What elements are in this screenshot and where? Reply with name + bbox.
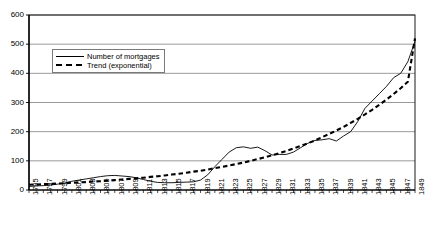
x-axis-tick-label: 1839 <box>347 178 355 195</box>
y-axis-tick-label: 400 <box>0 69 24 77</box>
x-axis-tick-label: 1829 <box>275 178 283 195</box>
x-axis-tick-label: 1801 <box>75 178 83 195</box>
x-axis-tick-label: 1835 <box>318 178 326 195</box>
y-axis-tick-label: 500 <box>0 40 24 48</box>
x-axis-tick-label: 1827 <box>261 178 269 195</box>
chart-plot-area <box>0 0 440 251</box>
x-axis-tick-label: 1849 <box>418 178 426 195</box>
x-axis-tick-label: 1825 <box>246 178 254 195</box>
x-axis-tick-label: 1795 <box>32 178 40 195</box>
x-axis-tick-label: 1797 <box>46 178 54 195</box>
chart-legend: Number of mortgagesTrend (exponential) <box>52 49 165 73</box>
x-axis-tick-label: 1799 <box>61 178 69 195</box>
x-axis-tick-label: 1819 <box>204 178 212 195</box>
x-axis-tick-label: 1811 <box>146 179 154 195</box>
x-axis-tick-label: 1809 <box>132 178 140 195</box>
y-axis-tick-label: 300 <box>0 99 24 107</box>
dashed-line-icon <box>56 61 84 70</box>
x-axis-tick-label: 1845 <box>389 178 397 195</box>
y-axis-tick-label: 600 <box>0 11 24 19</box>
legend-item-label: Trend (exponential) <box>87 61 152 70</box>
chart-container: 6005004003002001000 17951797179918011803… <box>0 0 440 251</box>
x-axis-tick-label: 1805 <box>103 178 111 195</box>
x-axis-tick-label: 1817 <box>189 178 197 195</box>
x-axis-tick-label: 1813 <box>161 178 169 195</box>
legend-item-label: Number of mortgages <box>87 52 160 61</box>
y-axis-tick-label: 0 <box>0 186 24 194</box>
y-axis-tick-label: 100 <box>0 157 24 165</box>
x-axis-tick-label: 1803 <box>89 178 97 195</box>
x-axis-tick-label: 1821 <box>218 178 226 195</box>
x-axis-tick-label: 1807 <box>118 178 126 195</box>
legend-item: Number of mortgages <box>56 52 160 61</box>
x-axis-tick-label: 1837 <box>332 178 340 195</box>
x-axis-tick-label: 1815 <box>175 178 183 195</box>
y-axis-tick-label: 200 <box>0 128 24 136</box>
x-axis-tick-label: 1843 <box>375 178 383 195</box>
x-axis-tick-label: 1847 <box>404 178 412 195</box>
x-axis-tick-label: 1841 <box>361 178 369 195</box>
x-axis-tick-label: 1831 <box>289 178 297 195</box>
legend-item: Trend (exponential) <box>56 61 160 70</box>
x-axis-tick-label: 1823 <box>232 178 240 195</box>
x-axis-tick-label: 1833 <box>304 178 312 195</box>
solid-line-icon <box>56 52 84 61</box>
